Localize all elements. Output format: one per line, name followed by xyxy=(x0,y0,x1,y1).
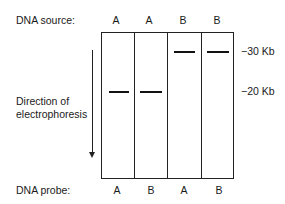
lane-divider xyxy=(134,32,135,179)
source-lane-1: A xyxy=(106,14,126,26)
lane-divider xyxy=(167,32,168,179)
probe-lane-4: B xyxy=(209,184,229,196)
marker-30kb: −30 Kb xyxy=(241,45,275,57)
band-lane-4-30kb xyxy=(207,51,229,53)
lane-divider xyxy=(201,32,202,179)
probe-lane-1: A xyxy=(107,184,127,196)
dna-source-label: DNA source: xyxy=(16,14,75,26)
probe-lane-3: A xyxy=(174,184,194,196)
marker-20kb: −20 Kb xyxy=(241,85,275,97)
source-lane-2: A xyxy=(139,14,159,26)
direction-arrow-shaft xyxy=(92,50,93,154)
probe-lane-2: B xyxy=(141,184,161,196)
band-lane-2-20kb xyxy=(140,91,162,93)
source-lane-3: B xyxy=(173,14,193,26)
direction-label-line1: Direction of xyxy=(16,95,69,107)
band-lane-3-30kb xyxy=(174,51,195,53)
band-lane-1-20kb xyxy=(109,91,129,93)
dna-probe-label: DNA probe: xyxy=(16,184,70,196)
direction-label-line2: electrophoresis xyxy=(16,108,87,120)
down-arrow-icon xyxy=(89,152,95,158)
source-lane-4: B xyxy=(207,14,227,26)
